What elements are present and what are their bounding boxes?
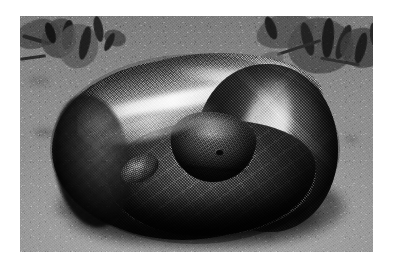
photograph: A large dark snake coiled in a loose kno… bbox=[20, 16, 373, 252]
page-root: A large dark snake coiled in a loose kno… bbox=[0, 0, 393, 269]
film-grain-fine bbox=[20, 16, 373, 252]
